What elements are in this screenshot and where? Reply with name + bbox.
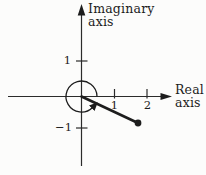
imaginary-axis-arrow-icon <box>78 4 86 16</box>
real-tick-label-1: 1 <box>108 99 121 111</box>
imaginary-axis-label: Imaginary axis <box>88 2 155 28</box>
real-axis-arrow-icon <box>161 93 173 100</box>
real-axis-label-line2: axis <box>175 96 204 109</box>
imaginary-axis-label-line2: axis <box>88 15 155 28</box>
real-tick-label-2: 2 <box>141 99 154 111</box>
complex-plane-figure: Imaginary axis Real axis 1 −1 1 2 <box>0 0 206 175</box>
imag-tick-label-positive: 1 <box>58 54 71 66</box>
imag-tick-label-negative: −1 <box>50 121 72 133</box>
point-dot <box>135 120 142 127</box>
real-axis-label: Real axis <box>175 83 204 109</box>
